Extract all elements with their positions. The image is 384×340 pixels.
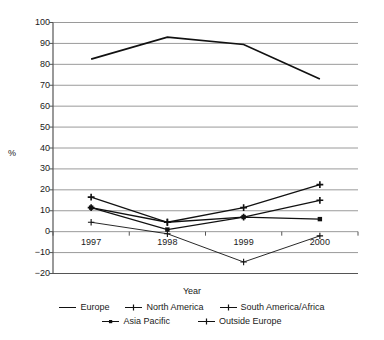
series-marker-south-america-africa <box>316 197 323 204</box>
legend-item-outside-europe[interactable]: Outside Europe <box>198 317 282 326</box>
legend-label-outside-europe: Outside Europe <box>219 317 282 326</box>
series-marker-north-america <box>88 194 95 201</box>
legend-label-asia-pacific: Asia Pacific <box>123 317 170 326</box>
legend-swatch-south-america-africa <box>220 303 237 312</box>
x-tick-label-2000: 2000 <box>300 238 340 247</box>
series-marker-outside-europe <box>88 219 94 225</box>
legend-item-north-america[interactable]: North America <box>125 303 203 312</box>
series-marker-outside-europe <box>240 259 246 265</box>
x-axis-title: Year <box>0 286 384 296</box>
legend-row-2: Asia Pacific Outside Europe <box>0 314 384 328</box>
legend-item-asia-pacific[interactable]: Asia Pacific <box>102 317 170 326</box>
series-line-south-america-africa <box>91 200 320 222</box>
series-line-outside-europe <box>91 222 320 262</box>
legend-swatch-outside-europe <box>198 317 215 326</box>
legend-label-north-america: North America <box>146 303 203 312</box>
series-marker-north-america <box>316 181 323 188</box>
legend-swatch-north-america <box>125 303 142 312</box>
x-tick-label-1998: 1998 <box>147 238 187 247</box>
series-marker-north-america <box>240 204 247 211</box>
legend-item-europe[interactable]: Europe <box>59 303 109 312</box>
series-marker-south-america-africa <box>164 219 171 226</box>
legend-label-europe: Europe <box>80 303 109 312</box>
legend-swatch-asia-pacific <box>102 317 119 326</box>
legend-row-1: Europe North America South A <box>0 300 384 314</box>
series-marker-asia-pacific <box>241 215 245 219</box>
chart-container: % −20−100102030405060708090100 199719981… <box>0 0 384 340</box>
legend-swatch-europe <box>59 303 76 312</box>
x-tick-label-1999: 1999 <box>224 238 264 247</box>
chart-legend: Europe North America South A <box>0 300 384 328</box>
x-tick-label-1997: 1997 <box>71 238 111 247</box>
legend-item-south-america-africa[interactable]: South America/Africa <box>220 303 325 312</box>
series-marker-asia-pacific <box>318 217 322 221</box>
legend-label-south-america-africa: South America/Africa <box>241 303 325 312</box>
series-marker-asia-pacific <box>89 205 93 209</box>
